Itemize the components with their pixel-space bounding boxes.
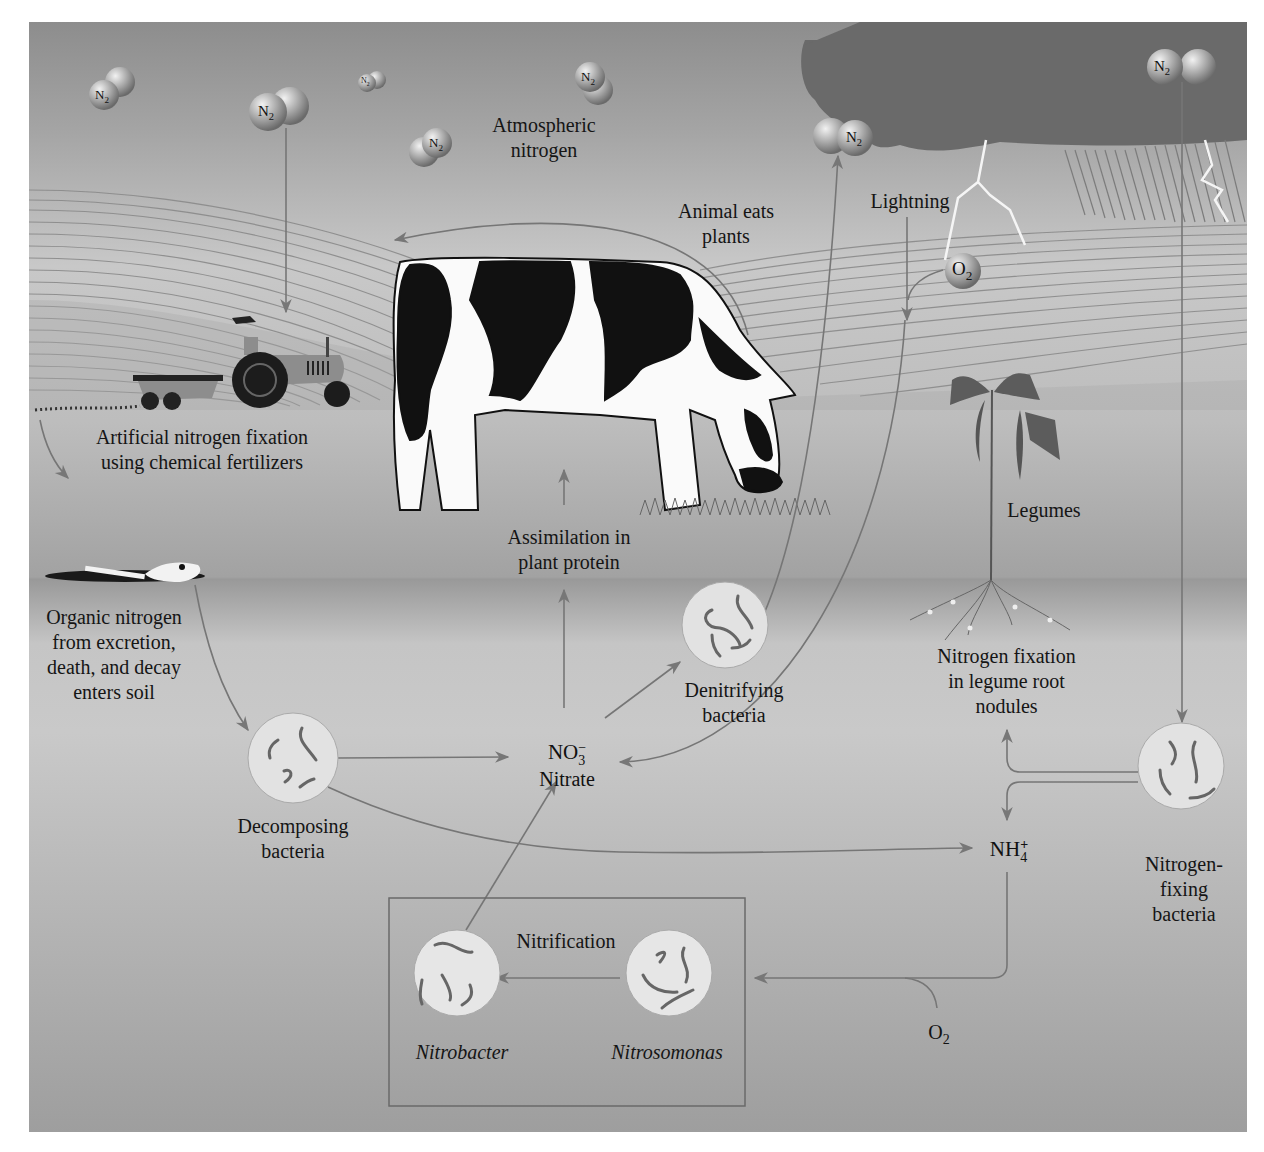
arrow-organic-to-decomposing bbox=[195, 585, 248, 730]
nitrification-label: Nitrification bbox=[506, 929, 626, 954]
n2-molecule-label: N2 bbox=[581, 69, 595, 87]
arrow-nh4-to-nitrosomonas bbox=[755, 872, 1007, 978]
n2-molecule-label: N2 bbox=[258, 103, 274, 122]
n2-molecule-label: N2 bbox=[361, 76, 370, 87]
scene-illustration bbox=[29, 22, 1247, 1132]
atmospheric-nitrogen-label: Atmosphericnitrogen bbox=[479, 113, 609, 163]
n2-molecule-label: N2 bbox=[846, 129, 862, 148]
arrow-fixing-to-nodules bbox=[1007, 730, 1138, 772]
nitrogen-fixing-bacteria-label: Nitrogen-fixing bacteria bbox=[1129, 852, 1239, 927]
n2-molecule-label: N2 bbox=[429, 135, 443, 153]
nitrosomonas-icon bbox=[626, 930, 712, 1016]
nitrate-label: NO−3 Nitrate bbox=[517, 740, 617, 791]
n2-molecule-label: N2 bbox=[95, 87, 109, 105]
decomposing-bacteria-icon bbox=[248, 713, 338, 803]
arrow-o2-join bbox=[905, 978, 937, 1008]
denitrifying-bacteria-label: Denitrifyingbacteria bbox=[669, 678, 799, 728]
o2-molecule-label: O2 bbox=[952, 258, 972, 284]
arrow-nitrobacter-to-nitrate bbox=[466, 782, 556, 930]
nitrogen-cycle-diagram: N2 N2 N2 N2 N2 N2 N2 O2 Atmosphericnitro… bbox=[29, 22, 1247, 1132]
nitrogen-fixing-bacteria-icon bbox=[1138, 723, 1224, 809]
lightning-bolt-icon bbox=[945, 140, 1228, 260]
rain-icon bbox=[1065, 140, 1245, 222]
animal-eats-plants-label: Animal eatsplants bbox=[661, 199, 791, 249]
ammonium-label: NH+4 bbox=[974, 837, 1044, 864]
assimilation-label: Assimilation inplant protein bbox=[484, 525, 654, 575]
nitrobacter-label: Nitrobacter bbox=[397, 1040, 527, 1065]
legumes-label: Legumes bbox=[994, 498, 1094, 523]
organic-nitrogen-label: Organic nitrogenfrom excretion, death, a… bbox=[29, 605, 199, 705]
cow-icon bbox=[394, 258, 795, 510]
nodule-fixation-label: Nitrogen fixationin legume root nodules bbox=[919, 644, 1094, 719]
arrow-decomposing-to-nitrate bbox=[338, 757, 508, 758]
denitrifying-bacteria-icon bbox=[682, 582, 768, 668]
n2-molecule-label: N2 bbox=[1154, 58, 1170, 77]
arrow-decomposing-to-nh4 bbox=[328, 787, 972, 853]
decomposing-bacteria-label: Decomposingbacteria bbox=[218, 814, 368, 864]
artificial-fixation-label: Artificial nitrogen fixationusing chemic… bbox=[57, 425, 347, 475]
nitrosomonas-label: Nitrosomonas bbox=[597, 1040, 737, 1065]
nitrobacter-icon bbox=[414, 930, 500, 1016]
oxygen-label: O2 bbox=[919, 1020, 959, 1052]
lightning-label: Lightning bbox=[855, 189, 965, 214]
decaying-remains-icon bbox=[45, 562, 205, 582]
arrow-fixing-to-nh4 bbox=[1007, 782, 1138, 820]
